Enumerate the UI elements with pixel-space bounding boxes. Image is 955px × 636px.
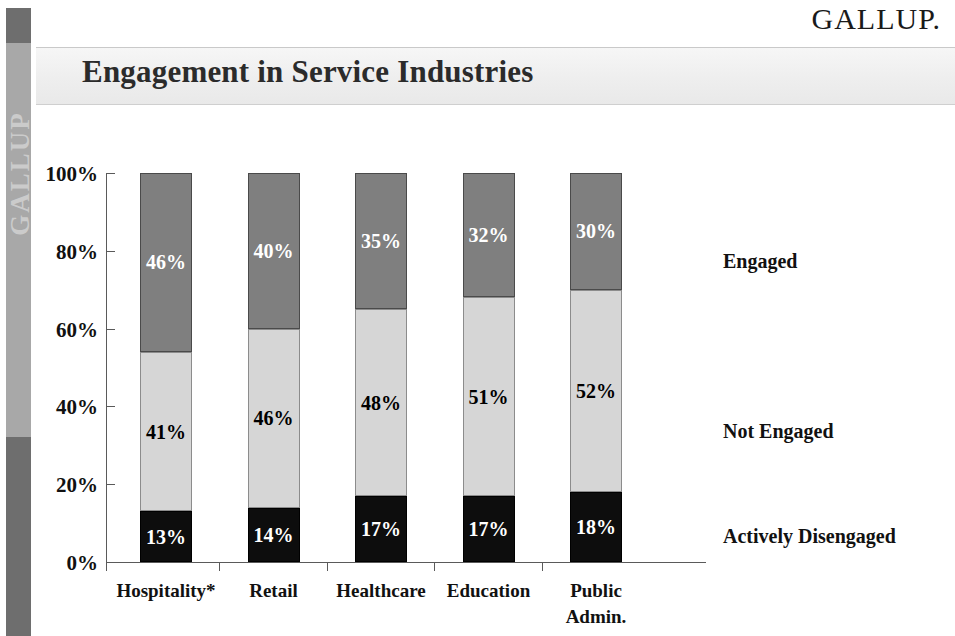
x-axis-tick (219, 562, 220, 571)
x-axis-tick (327, 562, 328, 571)
y-axis-tick-label: 100% (20, 162, 98, 184)
y-axis-tick-label-text: 80% (20, 240, 98, 265)
y-axis-tick-label-text: 40% (20, 395, 98, 420)
y-axis-tick (106, 562, 115, 563)
bar-segment-actively-disengaged[interactable]: 14% (248, 508, 300, 562)
y-axis-tick-label-text: 0% (20, 551, 98, 576)
x-axis-tick (434, 562, 435, 571)
bar-segment-not-engaged[interactable]: 52% (570, 290, 622, 492)
bar-segment-engaged[interactable]: 40% (248, 173, 300, 329)
y-axis-tick (106, 484, 115, 485)
x-axis-category-label: PublicAdmin. (516, 578, 676, 629)
y-axis-tick-label: 20% (20, 473, 98, 495)
y-axis-tick-label: 40% (20, 395, 98, 417)
bar-segment-engaged[interactable]: 32% (463, 173, 515, 297)
y-axis-tick-label: 0% (20, 551, 98, 573)
y-axis-tick (106, 329, 115, 330)
bar-segment-not-engaged[interactable]: 41% (140, 352, 192, 511)
stacked-bar[interactable]: 32%51%17% (463, 173, 515, 562)
y-axis-tick (106, 406, 115, 407)
bar-segment-actively-disengaged[interactable]: 18% (570, 492, 622, 562)
bar-segment-not-engaged[interactable]: 51% (463, 297, 515, 495)
stacked-bar[interactable]: 46%41%13% (140, 173, 192, 562)
y-axis-line (106, 173, 107, 563)
category-label-line: Public (516, 578, 676, 604)
bar-segment-engaged[interactable]: 30% (570, 173, 622, 290)
legend-item-engaged: Engaged (723, 250, 797, 273)
stacked-bar[interactable]: 40%46%14% (248, 173, 300, 562)
x-axis-tick (542, 562, 543, 571)
x-axis-tick (106, 562, 107, 571)
bar-segment-not-engaged[interactable]: 46% (248, 329, 300, 508)
y-axis-tick-label-text: 100% (20, 162, 98, 187)
stacked-bar-chart: 100%80%60%40%20%0% 46%41%13%40%46%14%35%… (0, 0, 955, 636)
bar-segment-engaged[interactable]: 35% (355, 173, 407, 309)
y-axis-tick (106, 173, 115, 174)
bar-segment-actively-disengaged[interactable]: 17% (355, 496, 407, 562)
bar-segment-engaged[interactable]: 46% (140, 173, 192, 352)
category-label-line: Admin. (516, 604, 676, 630)
stacked-bar[interactable]: 35%48%17% (355, 173, 407, 562)
bar-segment-actively-disengaged[interactable]: 17% (463, 496, 515, 562)
y-axis-tick-label-text: 60% (20, 318, 98, 343)
y-axis-tick-label: 80% (20, 240, 98, 262)
bar-segment-actively-disengaged[interactable]: 13% (140, 511, 192, 562)
bar-segment-not-engaged[interactable]: 48% (355, 309, 407, 496)
y-axis-tick-label: 60% (20, 318, 98, 340)
x-axis-line (106, 562, 706, 563)
stacked-bar[interactable]: 30%52%18% (570, 173, 622, 562)
y-axis-tick-label-text: 20% (20, 473, 98, 498)
legend-item-actively-disengaged: Actively Disengaged (723, 525, 896, 548)
legend-item-not-engaged: Not Engaged (723, 420, 834, 443)
y-axis-tick (106, 251, 115, 252)
